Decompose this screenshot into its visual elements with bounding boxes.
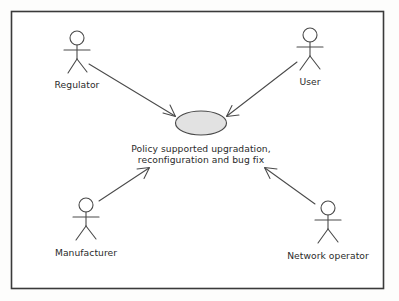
usecase-ellipse[interactable] [176, 111, 227, 135]
actor-label-regulator: Regulator [55, 79, 100, 90]
usecase-label-line2: reconfiguration and bug fix [138, 154, 265, 165]
usecase-label-line1: Policy supported upgradation, [131, 143, 270, 154]
actor-label-network-operator: Network operator [287, 250, 369, 261]
diagram-canvas: Policy supported upgradation, reconfigur… [0, 0, 399, 301]
actor-label-user: User [299, 76, 320, 87]
actor-label-manufacturer: Manufacturer [55, 247, 117, 258]
use-case-diagram: Policy supported upgradation, reconfigur… [0, 0, 399, 301]
